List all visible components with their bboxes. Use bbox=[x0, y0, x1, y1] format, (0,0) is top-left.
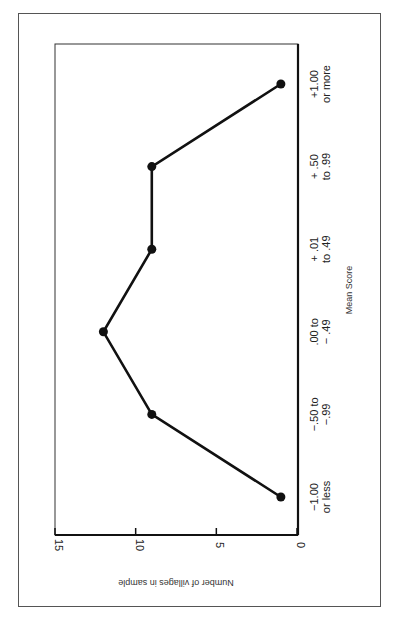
category-label: + .01to .49 bbox=[308, 235, 332, 263]
value-tick-label: 5 bbox=[214, 542, 226, 548]
data-point bbox=[276, 80, 285, 89]
category-label-line: +1.00 bbox=[308, 70, 320, 98]
category-label-line: + .50 bbox=[308, 154, 320, 179]
plot-area bbox=[55, 44, 298, 535]
category-label: −.50 to−.99 bbox=[308, 397, 332, 431]
value-tick-label: 15 bbox=[53, 539, 65, 551]
x-axis-title: Mean Score bbox=[344, 266, 354, 315]
value-tick-label: 10 bbox=[134, 539, 146, 551]
category-label: +1.00or more bbox=[308, 65, 332, 103]
category-label-line: − .49 bbox=[320, 319, 332, 344]
category-label-line: .00 to bbox=[308, 318, 320, 346]
category-label-line: or more bbox=[320, 65, 332, 103]
category-label-line: to .49 bbox=[320, 235, 332, 263]
data-point bbox=[147, 162, 156, 171]
y-axis-title: Number of villages in sample bbox=[118, 578, 234, 588]
category-label: −1.00or less bbox=[308, 480, 332, 513]
data-point bbox=[276, 493, 285, 502]
category-label-line: −1.00 bbox=[308, 483, 320, 511]
chart: 051015 −1.00or less−.50 to−.99.00 to− .4… bbox=[0, 0, 393, 621]
value-tick-label: 0 bbox=[295, 542, 307, 548]
category-label-line: or less bbox=[320, 480, 332, 513]
category-label-line: + .01 bbox=[308, 237, 320, 262]
data-point bbox=[147, 245, 156, 254]
data-point bbox=[147, 410, 156, 419]
data-point bbox=[99, 327, 108, 336]
category-label-line: −.99 bbox=[320, 404, 332, 426]
category-label: + .50to .99 bbox=[308, 153, 332, 181]
category-label-line: −.50 to bbox=[308, 397, 320, 431]
category-label: .00 to− .49 bbox=[308, 318, 332, 346]
series-line bbox=[103, 84, 280, 497]
category-label-line: to .99 bbox=[320, 153, 332, 181]
